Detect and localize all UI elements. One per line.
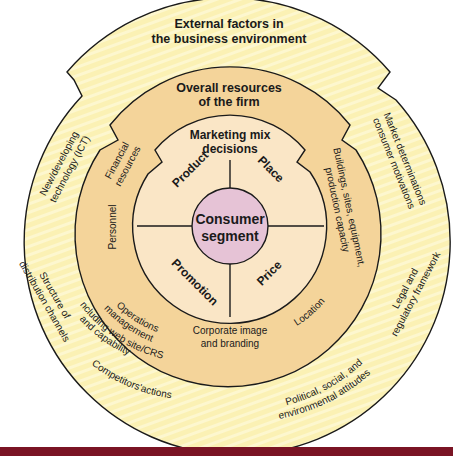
core-line1: Consumer [195, 211, 265, 227]
inner-title-line1: Marketing mix [190, 128, 271, 142]
outer-ring-title-line1: External factors in [174, 17, 283, 31]
inner-title-line2: decisions [202, 142, 258, 156]
marketing-environment-diagram: External factors in the business environ… [0, 0, 453, 456]
label-corporate-line2: and branding [201, 338, 259, 349]
label-corporate-line1: Corporate image [193, 325, 268, 336]
footer-bar [0, 447, 453, 456]
core-line2: segment [201, 228, 259, 244]
middle-ring-title-line1: Overall resources [176, 81, 282, 95]
label-personnel: Personnel [107, 204, 118, 249]
middle-ring-title-line2: of the firm [198, 95, 259, 109]
outer-ring-title-line2: the business environment [152, 32, 308, 46]
label-personnel-text: Personnel [107, 204, 118, 249]
